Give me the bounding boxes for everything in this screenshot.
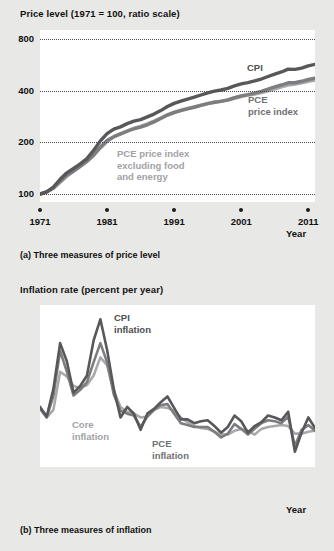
panel-a-caption: (a) Three measures of price level xyxy=(20,250,160,260)
price-level-figure: Price level (1971 = 100, ratio scale) 10… xyxy=(0,0,334,276)
x-axis-tick-label: 1971 xyxy=(20,216,60,227)
panel-b-label-pce: PCE inflation xyxy=(152,438,189,461)
panel-b-label-core: Core inflation xyxy=(72,419,109,442)
panel-a-label-core-line3: and energy xyxy=(117,171,189,183)
x-axis-tick-label: 2001 xyxy=(221,216,261,227)
gridline xyxy=(40,194,315,195)
panel-b-label-cpi-line2: inflation xyxy=(114,324,151,336)
x-axis-tick-dot xyxy=(38,208,42,212)
panel-a-label-core: PCE price index excluding food and energ… xyxy=(117,148,189,183)
x-axis-tick-dot xyxy=(306,208,310,212)
panel-a-label-pce-line2: price index xyxy=(248,106,298,118)
panel-b-label-pce-line2: inflation xyxy=(152,450,189,462)
panel-a-x-axis-label: Year xyxy=(286,228,306,239)
panel-b-label-cpi: CPI inflation xyxy=(114,312,151,335)
panel-b-caption: (b) Three measures of inflation xyxy=(20,525,152,535)
panel-a-label-core-line1: PCE price index xyxy=(117,148,189,160)
y-axis-tick-label: 800 xyxy=(4,33,34,44)
y-axis-tick-label: 400 xyxy=(4,85,34,96)
panel-a-label-cpi: CPI xyxy=(247,62,263,74)
gridline xyxy=(40,91,315,92)
inflation-rate-figure: Inflation rate (percent per year) –20510… xyxy=(0,276,334,551)
y-axis-tick-label: 100 xyxy=(4,188,34,199)
x-axis-tick-dot xyxy=(172,208,176,212)
panel-a-label-pce: PCE price index xyxy=(248,94,298,117)
x-axis-tick-label: 1991 xyxy=(154,216,194,227)
y-axis-tick-label: 200 xyxy=(4,136,34,147)
x-axis-tick-dot xyxy=(105,208,109,212)
panel-b-label-cpi-line1: CPI xyxy=(114,312,151,324)
panel-b-axis-title: Inflation rate (percent per year) xyxy=(20,284,163,295)
gridline xyxy=(40,142,315,143)
panel-b-label-core-line1: Core xyxy=(72,419,109,431)
panel-a-axis-title: Price level (1971 = 100, ratio scale) xyxy=(20,8,180,19)
panel-b-label-core-line2: inflation xyxy=(72,431,109,443)
panel-b-label-pce-line1: PCE xyxy=(152,438,189,450)
panel-a-label-pce-line1: PCE xyxy=(248,94,298,106)
gridline xyxy=(40,39,315,40)
panel-a-label-core-line2: excluding food xyxy=(117,160,189,172)
x-axis-tick-label: 1981 xyxy=(87,216,127,227)
panel-b-x-axis-label: Year xyxy=(286,504,306,515)
x-axis-tick-label: 2011 xyxy=(288,216,328,227)
x-axis-tick-dot xyxy=(239,208,243,212)
